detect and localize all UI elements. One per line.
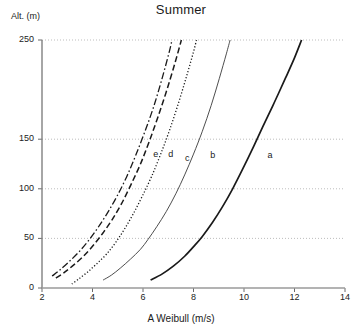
x-tick-label: 4	[83, 292, 103, 302]
x-tick-label: 12	[285, 292, 305, 302]
axis-lines	[42, 40, 345, 288]
y-tick-label: 100	[8, 183, 34, 193]
y-tick-label: 50	[8, 232, 34, 242]
curve-c	[72, 40, 197, 284]
y-tick-label: 250	[8, 34, 34, 44]
x-axis-label: A Weibull (m/s)	[0, 313, 362, 324]
y-tick-label: 0	[8, 282, 34, 292]
curve-label-a: a	[268, 150, 273, 160]
curve-label-b: b	[210, 150, 215, 160]
chart-figure: Summer Alt. (m) 050100150250 2468101214 …	[0, 0, 362, 335]
data-curves	[52, 40, 301, 284]
curve-label-d: d	[168, 149, 173, 159]
plot-area	[0, 0, 362, 335]
curve-a	[151, 40, 302, 280]
gridlines	[42, 40, 345, 238]
x-tick-label: 6	[133, 292, 153, 302]
x-tick-label: 2	[32, 292, 52, 302]
x-tick-label: 10	[234, 292, 254, 302]
x-tick-label: 8	[184, 292, 204, 302]
curve-label-e: e	[153, 149, 158, 159]
curve-label-c: c	[185, 153, 190, 163]
y-tick-label: 150	[8, 133, 34, 143]
x-tick-label: 14	[335, 292, 355, 302]
